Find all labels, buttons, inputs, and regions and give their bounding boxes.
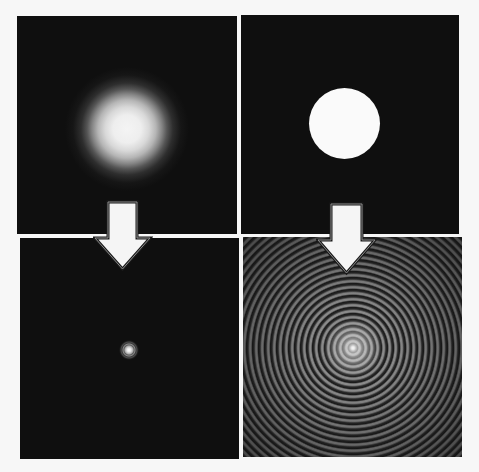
circular-disk: [309, 88, 380, 159]
down-arrow-icon: [316, 202, 378, 276]
gaussian-blob: [27, 29, 227, 229]
down-arrow-icon: [93, 200, 153, 272]
narrow-gaussian-spot: [119, 340, 139, 360]
